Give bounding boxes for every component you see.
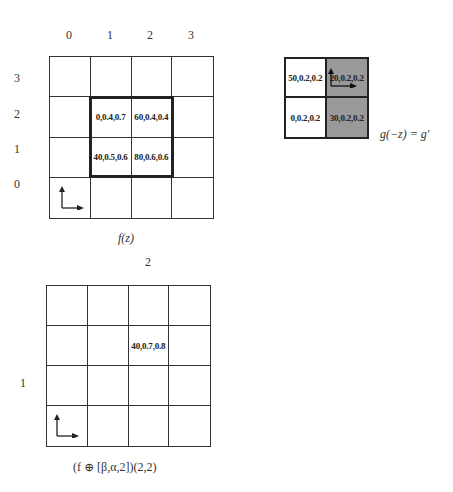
grid-cell: 40,0.5,0.6 — [91, 138, 132, 178]
coordinate-axes-icon — [59, 186, 85, 210]
kernel-cell-origin: 20,0.2,0.2 — [327, 59, 368, 98]
grid-cell — [88, 286, 129, 326]
grid-cell — [50, 138, 91, 178]
grid-cell — [169, 326, 210, 366]
grid-cell: 0,0.4,0.7 — [91, 97, 132, 137]
grid-cell: 60,0.4,0.4 — [132, 97, 173, 137]
grid-cell — [88, 326, 129, 366]
grid-cell — [50, 97, 91, 137]
grid-cell — [169, 286, 210, 326]
grid-cell — [169, 406, 210, 446]
caption-g: g(−z) = g′ — [380, 127, 429, 142]
bottom-grid-result: 40,0.7,0.8 — [46, 285, 211, 447]
grid-cell-origin — [47, 406, 88, 446]
grid-cell — [172, 178, 213, 218]
grid-cell — [129, 286, 170, 326]
kernel-cell: 0,0.2,0.2 — [286, 98, 327, 137]
kernel-cell: 30,0.2,0.2 — [327, 98, 368, 137]
caption-f: f(z) — [118, 231, 134, 246]
col-label-1: 1 — [100, 28, 120, 43]
grid-cell — [129, 406, 170, 446]
grid-cell — [132, 57, 173, 97]
grid-cell — [88, 406, 129, 446]
kernel-grid-g: 50,0.2,0.2 20,0.2,0.2 0,0.2,0.2 30,0.2,0… — [284, 57, 369, 139]
row-label-0: 0 — [7, 177, 27, 192]
grid-cell: 80,0.6,0.6 — [132, 138, 173, 178]
grid-cell — [47, 366, 88, 406]
grid-cell — [91, 57, 132, 97]
grid-cell — [47, 326, 88, 366]
grid-cell — [47, 286, 88, 326]
grid-cell — [172, 138, 213, 178]
col-label-0: 0 — [59, 28, 79, 43]
row-label-3: 3 — [7, 71, 27, 86]
grid-cell — [132, 178, 173, 218]
row-label-1: 1 — [7, 142, 27, 157]
grid-cell — [172, 57, 213, 97]
grid-cell-result-value: 40,0.7,0.8 — [129, 326, 170, 366]
top-grid-f: 0,0.4,0.7 60,0.4,0.4 40,0.5,0.6 80,0.6,0… — [49, 56, 214, 219]
grid-cell — [169, 366, 210, 406]
grid-cell — [129, 366, 170, 406]
bottom-row-label: 1 — [13, 376, 33, 391]
col-label-2: 2 — [140, 28, 160, 43]
coordinate-axes-icon — [54, 414, 80, 438]
grid-cell — [172, 97, 213, 137]
caption-result: (f ⊕ [β,α,2])(2,2) — [73, 460, 156, 475]
grid-cell — [88, 366, 129, 406]
grid-cell-origin — [50, 178, 91, 218]
bottom-col-label: 2 — [138, 255, 158, 270]
row-label-2: 2 — [7, 107, 27, 122]
col-label-3: 3 — [181, 28, 201, 43]
grid-cell — [50, 57, 91, 97]
kernel-cell-value: 20,0.2,0.2 — [330, 73, 364, 83]
kernel-cell: 50,0.2,0.2 — [286, 59, 327, 98]
grid-cell — [91, 178, 132, 218]
